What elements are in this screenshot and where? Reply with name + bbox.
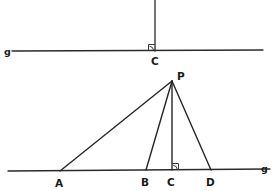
geometry-figure: g C P A B C D g xyxy=(0,0,273,191)
bottom-line-g xyxy=(8,169,270,171)
point-d-label: D xyxy=(206,176,215,188)
segment-pb xyxy=(146,81,172,170)
top-line-g-label: g xyxy=(4,46,11,57)
point-b-label: B xyxy=(141,176,149,188)
bottom-line-g-label: g xyxy=(261,163,268,174)
point-p-label: P xyxy=(177,70,185,82)
bottom-figure-group: P A B C D g xyxy=(8,70,270,189)
top-line-g xyxy=(12,50,263,51)
point-c-label: C xyxy=(167,176,175,188)
segment-pd xyxy=(172,81,211,170)
top-figure-group: g C xyxy=(4,0,263,67)
segment-pa xyxy=(60,81,172,171)
right-angle-arc-top xyxy=(150,46,154,50)
point-a-label: A xyxy=(55,177,64,189)
right-angle-arc-bottom xyxy=(173,165,177,169)
figure-canvas: g C P A B C D g xyxy=(0,0,273,191)
top-point-c-label: C xyxy=(151,55,159,67)
